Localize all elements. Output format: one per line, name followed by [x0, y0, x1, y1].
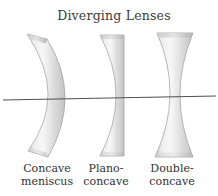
- optical-axis-line: [3, 96, 216, 100]
- lens-plano-concave: [100, 35, 124, 156]
- diverging-lenses-figure: Diverging Lenses: [0, 0, 218, 196]
- lens-concave-meniscus-body: [27, 34, 65, 157]
- lens-double-concave-body: [155, 33, 193, 157]
- lens-double-concave: [155, 33, 193, 157]
- label-plano-concave: Plano- concave: [78, 162, 134, 188]
- lens-double-concave-top-cap: [157, 33, 193, 38]
- label-double-concave-line2: concave: [149, 175, 194, 188]
- label-plano-concave-line1: Plano-: [89, 162, 124, 175]
- lens-plano-concave-bottom-cap: [100, 152, 124, 156]
- label-double-concave: Double- concave: [144, 162, 200, 188]
- label-concave-meniscus-line1: Concave: [23, 162, 71, 175]
- label-double-concave-line1: Double-: [150, 162, 193, 175]
- lens-double-concave-bottom-cap: [155, 153, 193, 158]
- label-concave-meniscus-line2: meniscus: [21, 175, 73, 188]
- lens-plano-concave-top-cap: [100, 35, 124, 39]
- label-concave-meniscus: Concave meniscus: [19, 162, 75, 188]
- lens-plano-concave-body: [100, 35, 124, 156]
- lens-concave-meniscus: [27, 34, 65, 157]
- label-plano-concave-line2: concave: [83, 175, 128, 188]
